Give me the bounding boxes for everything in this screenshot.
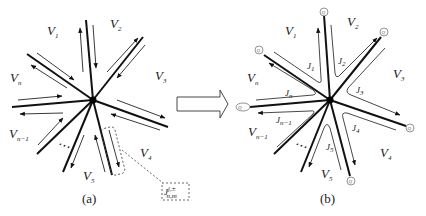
region-label-v4: V4: [380, 145, 392, 162]
caption-b: (b): [320, 191, 335, 206]
endpoint-q2: Q: [380, 28, 388, 36]
region-label-v5: V5: [321, 166, 333, 183]
ellipsis-a: ⋯: [55, 135, 72, 154]
endpoint-qn-1: Q: [236, 103, 250, 111]
junction-path-j5: [309, 125, 341, 171]
lane-arrow: [80, 28, 83, 72]
region-label-v1: V1: [47, 23, 58, 40]
region-label-v4: V4: [140, 145, 152, 162]
lane-arrow: [107, 38, 138, 72]
panel-b: Q Q Q Q Q Q V1 V2 V3 V4 V5 Vn−1 Vn J1 J2…: [236, 8, 414, 206]
lane-arrow: [93, 25, 96, 68]
endpoint-q1: Q: [320, 8, 328, 16]
lane-arrow: [20, 113, 63, 114]
junction-path-j1: [274, 28, 321, 83]
panel-a: V1 V2 V3 V4 V5 Vn−1 Vn ⋯ Jj,±n,m (a): [9, 16, 189, 206]
junction-label-j2: J2: [338, 56, 346, 68]
junction-label-j3: J3: [356, 85, 364, 97]
ellipsis-b: ⋯: [292, 135, 309, 154]
svg-text:Q: Q: [408, 126, 412, 131]
svg-text:Q: Q: [322, 10, 326, 15]
caption-a: (a): [82, 191, 96, 206]
junction-label-jn-1: Jn−1: [276, 115, 292, 127]
endpoint-q4: Q: [347, 177, 355, 185]
lane-arrow: [37, 53, 74, 80]
region-label-v3: V3: [393, 66, 405, 83]
junction-label-j5: J5: [326, 142, 334, 154]
road-1: [324, 15, 330, 100]
region-label-v2: V2: [110, 16, 122, 33]
callout-label: Jj,±n,m: [164, 185, 177, 200]
road-n-upper: [27, 54, 93, 100]
arrow-right-outline-icon: [177, 90, 228, 118]
region-label-v3: V3: [155, 68, 167, 85]
junction-label-j1: J1: [307, 61, 315, 73]
svg-text:Q: Q: [382, 30, 386, 35]
road-1: [86, 20, 93, 100]
lane-arrow: [117, 100, 165, 118]
region-label-vn-1: Vn−1: [248, 124, 268, 141]
lane-arrow: [117, 45, 145, 78]
lane-arrow: [109, 130, 119, 167]
region-label-vn-1: Vn−1: [9, 126, 29, 143]
road-3: [93, 100, 168, 127]
svg-text:Q: Q: [349, 179, 353, 184]
svg-text:Q: Q: [257, 48, 261, 53]
road-5: [63, 100, 93, 172]
lane-arrow: [18, 96, 62, 100]
junction-label-j4: J4: [352, 123, 360, 135]
intersection-node: [327, 97, 334, 104]
region-label-v1: V1: [285, 23, 296, 40]
road-2: [93, 37, 143, 100]
region-label-v5: V5: [83, 168, 95, 185]
endpoint-qn: Q: [255, 46, 263, 54]
junction-label-jn: Jn: [285, 88, 293, 100]
road-network-figure: V1 V2 V3 V4 V5 Vn−1 Vn ⋯ Jj,±n,m (a) Q Q: [0, 0, 426, 216]
region-label-v2: V2: [347, 14, 359, 31]
svg-text:Q: Q: [238, 105, 242, 110]
road-n: [250, 100, 330, 107]
intersection-node: [90, 97, 97, 104]
road-n: [12, 100, 93, 107]
endpoint-q3: Q: [406, 124, 414, 132]
region-label-vn: Vn: [10, 70, 22, 87]
junction-path-j3: [347, 48, 400, 115]
region-label-vn: Vn: [247, 70, 259, 87]
lane-arrow: [71, 135, 84, 168]
